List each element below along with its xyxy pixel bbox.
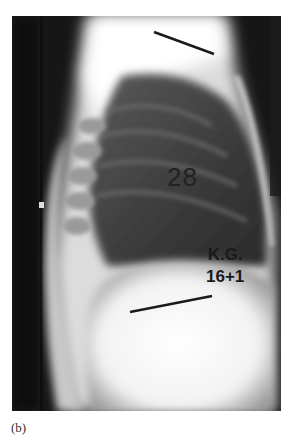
number-annotation: 28 — [167, 162, 198, 193]
side-marker — [39, 202, 44, 208]
initials-annotation: K.G. — [206, 244, 244, 266]
abdomen — [84, 260, 274, 411]
xray-rendering — [12, 16, 281, 411]
age-annotation: 16+1 — [206, 266, 244, 288]
patient-annotation: K.G. 16+1 — [206, 244, 244, 288]
left-margin — [12, 16, 40, 411]
xray-image: 28 K.G. 16+1 — [12, 16, 281, 411]
right-margin — [270, 16, 281, 196]
figure-caption: (b) — [11, 420, 26, 436]
